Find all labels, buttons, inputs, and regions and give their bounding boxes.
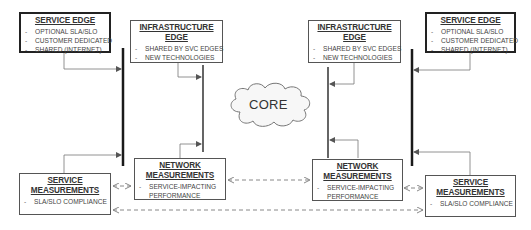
left-infra-title-2: EDGE: [135, 33, 218, 43]
right-infra-title-2: EDGE: [313, 33, 396, 43]
left-svcmeas-title-2: MEASUREMENTS: [24, 186, 106, 196]
list-item: -SERVICE-IMPACTING: [317, 183, 398, 192]
list-item: -OPTIONAL SLA/SLO: [431, 27, 510, 36]
left-netmeas-title-1: NETWORK: [139, 161, 221, 171]
list-item: PERFORMANCE: [139, 191, 221, 200]
left-svcmeas-title-1: SERVICE: [24, 176, 106, 186]
list-item: -SHARED (INTERNET): [25, 45, 105, 54]
right-netmeas-title-2: MEASUREMENTS: [317, 172, 398, 182]
right-svcmeas-title-1: SERVICE: [430, 178, 511, 188]
list-item: -CUSTOMER DEDICATED: [25, 36, 105, 45]
right-infrastructure-edge-box: INFRASTRUCTURE EDGE -SHARED BY SVC EDGES…: [308, 20, 401, 63]
left-netmeas-title-2: MEASUREMENTS: [139, 171, 221, 181]
list-item: -SHARED BY SVC EDGES: [313, 44, 396, 53]
right-netmeas-title-1: NETWORK: [317, 162, 398, 172]
right-service-edge-box: SERVICE EDGE -OPTIONAL SLA/SLO -CUSTOMER…: [425, 12, 516, 53]
left-service-edge-box: SERVICE EDGE -OPTIONAL SLA/SLO -CUSTOMER…: [19, 12, 111, 53]
list-item: -OPTIONAL SLA/SLO: [25, 27, 105, 36]
right-svcmeas-title-2: MEASUREMENTS: [430, 188, 511, 198]
left-infrastructure-edge-box: INFRASTRUCTURE EDGE -SHARED BY SVC EDGES…: [130, 20, 223, 63]
list-item: -SLA/SLO COMPLIANCE: [430, 199, 511, 208]
list-item: -SHARED BY SVC EDGES: [135, 44, 218, 53]
list-item: -SHARED (INTERNET): [431, 45, 510, 54]
right-infra-title-1: INFRASTRUCTURE: [313, 23, 396, 33]
left-network-measurements-box: NETWORK MEASUREMENTS -SERVICE-IMPACTING …: [134, 158, 226, 200]
list-item: -CUSTOMER DEDICATED: [431, 36, 510, 45]
list-item: -NEW TECHNOLOGIES: [313, 53, 396, 62]
core-label: CORE: [249, 97, 288, 112]
list-item: -NEW TECHNOLOGIES: [135, 53, 218, 62]
left-service-measurements-box: SERVICE MEASUREMENTS -SLA/SLO COMPLIANCE: [19, 173, 111, 215]
right-service-measurements-box: SERVICE MEASUREMENTS -SLA/SLO COMPLIANCE: [425, 175, 516, 217]
right-network-measurements-box: NETWORK MEASUREMENTS -SERVICE-IMPACTING …: [312, 159, 403, 201]
left-infra-title-1: INFRASTRUCTURE: [135, 23, 218, 33]
left-service-edge-title: SERVICE EDGE: [25, 16, 105, 26]
right-service-edge-title: SERVICE EDGE: [431, 16, 510, 26]
list-item: -SERVICE-IMPACTING: [139, 182, 221, 191]
list-item: -SLA/SLO COMPLIANCE: [24, 197, 106, 206]
list-item: PERFORMANCE: [317, 192, 398, 201]
